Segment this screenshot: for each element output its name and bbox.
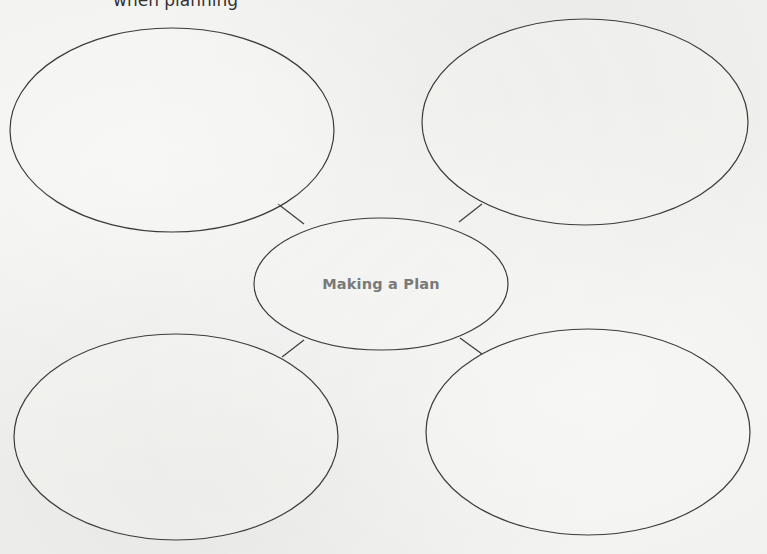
answer-area-bottom-right[interactable]: [476, 372, 700, 492]
answer-area-top-left[interactable]: [60, 70, 284, 190]
answer-area-top-right[interactable]: [473, 62, 697, 182]
answer-area-bottom-left[interactable]: [64, 377, 288, 497]
center-label: Making a Plan: [254, 218, 508, 350]
